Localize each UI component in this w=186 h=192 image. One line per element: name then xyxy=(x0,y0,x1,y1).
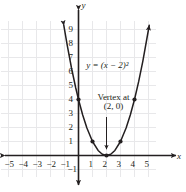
equation-label: y = (x − 2)² xyxy=(86,61,128,70)
x-tick-label: 2 xyxy=(103,160,108,169)
vertex-annotation-line2: (2, 0) xyxy=(86,102,142,111)
x-tick-label: 3 xyxy=(117,160,122,169)
y-tick-label: 4 xyxy=(69,95,74,104)
x-tick-label: −3 xyxy=(33,160,43,169)
y-axis-label: y xyxy=(82,1,86,10)
y-tick-label: 1 xyxy=(69,137,74,146)
y-tick-label: 8 xyxy=(69,39,74,48)
data-point xyxy=(76,97,80,101)
x-tick-label: −5 xyxy=(5,160,15,169)
y-tick-label: 5 xyxy=(69,81,74,90)
x-tick-label: −4 xyxy=(19,160,29,169)
y-tick-label: 2 xyxy=(69,123,74,132)
vertex-annotation: Vertex at (2, 0) xyxy=(86,93,142,111)
data-point xyxy=(104,153,108,157)
x-tick-label: −2 xyxy=(47,160,57,169)
x-axis-label: x xyxy=(177,152,181,161)
parabola-figure: y = (x − 2)² Vertex at (2, 0) x y −5−4−3… xyxy=(0,0,186,192)
data-point xyxy=(118,139,122,143)
data-point xyxy=(90,139,94,143)
y-tick-label: 9 xyxy=(69,25,74,34)
y-tick-label: −1 xyxy=(68,165,78,174)
x-tick-label: 5 xyxy=(145,160,150,169)
x-tick-label: 1 xyxy=(89,160,94,169)
y-tick-label: 7 xyxy=(69,53,74,62)
x-tick-label: 4 xyxy=(131,160,136,169)
y-tick-label: 6 xyxy=(69,67,74,76)
y-tick-label: 3 xyxy=(69,109,74,118)
